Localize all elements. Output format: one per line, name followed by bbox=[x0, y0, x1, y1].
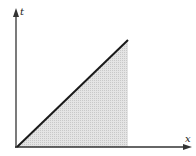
diagram-canvas: t x bbox=[0, 0, 196, 156]
y-axis-label: t bbox=[20, 6, 25, 17]
x-axis-arrow-icon bbox=[183, 144, 192, 150]
y-axis-arrow-icon bbox=[13, 8, 19, 17]
x-axis-label: x bbox=[185, 133, 191, 144]
